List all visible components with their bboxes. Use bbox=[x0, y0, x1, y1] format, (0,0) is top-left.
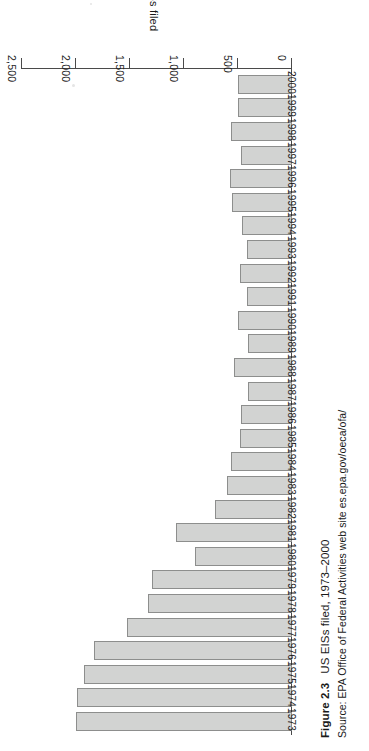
bar-row bbox=[22, 334, 292, 353]
bar-1973 bbox=[76, 712, 292, 731]
bar-1982 bbox=[215, 500, 292, 519]
category-label-1996: 1996 bbox=[286, 165, 296, 188]
category-label-1990: 1990 bbox=[286, 307, 296, 330]
axis-tick bbox=[291, 58, 292, 69]
bar-row bbox=[22, 523, 292, 542]
category-label-1982: 1982 bbox=[286, 496, 296, 519]
figure-number: Figure 2.3 bbox=[319, 683, 331, 738]
category-label-1980: 1980 bbox=[286, 543, 296, 566]
bar-row bbox=[22, 146, 292, 165]
axis-tick bbox=[237, 58, 238, 69]
axis-tick bbox=[21, 58, 22, 69]
bar-row bbox=[22, 240, 292, 259]
bar-1997 bbox=[241, 146, 292, 165]
bar-row bbox=[22, 264, 292, 283]
bar-1999 bbox=[238, 98, 292, 117]
bar-row bbox=[22, 358, 292, 377]
bar-1984 bbox=[231, 452, 292, 471]
bar-row bbox=[22, 618, 292, 637]
category-label-1998: 1998 bbox=[286, 118, 296, 141]
category-label-1977: 1977 bbox=[286, 614, 296, 637]
bar-row bbox=[22, 594, 292, 613]
bar-1985 bbox=[240, 429, 292, 448]
bar-row bbox=[22, 405, 292, 424]
bar-1980 bbox=[195, 547, 292, 566]
bar-row bbox=[22, 311, 292, 330]
bar-row bbox=[22, 122, 292, 141]
bar-row bbox=[22, 452, 292, 471]
category-label-1992: 1992 bbox=[286, 260, 296, 283]
category-label-1976: 1976 bbox=[286, 637, 296, 660]
bar-1981 bbox=[176, 523, 292, 542]
figure-source: Source: EPA Office of Federal Activities… bbox=[335, 398, 349, 738]
category-label-1975: 1975 bbox=[286, 661, 296, 684]
bar-row bbox=[22, 570, 292, 589]
category-label-1983: 1983 bbox=[286, 472, 296, 495]
category-label-1989: 1989 bbox=[286, 330, 296, 353]
bar-row bbox=[22, 75, 292, 94]
figure-caption: Figure 2.3US EISs filed, 1973–2000 Sourc… bbox=[318, 398, 364, 738]
bar-1979 bbox=[152, 570, 292, 589]
category-label-1986: 1986 bbox=[286, 401, 296, 424]
bar-1986 bbox=[241, 405, 292, 424]
bar-row bbox=[22, 382, 292, 401]
figure-page: 05001,0001,5002,0002,500 197319741975197… bbox=[0, 0, 369, 751]
bar-1994 bbox=[242, 216, 292, 235]
category-label-1974: 1974 bbox=[286, 684, 296, 707]
bar-1978 bbox=[148, 594, 292, 613]
figure-title: US EISs filed, 1973–2000 bbox=[319, 540, 331, 674]
bar-1992 bbox=[240, 264, 292, 283]
category-label-2000: 2000 bbox=[286, 71, 296, 94]
bar-row bbox=[22, 641, 292, 660]
bar-row bbox=[22, 287, 292, 306]
plot-area: 05001,0001,5002,0002,500 197319741975197… bbox=[22, 45, 292, 735]
category-label-1981: 1981 bbox=[286, 519, 296, 542]
bar-chart: 05001,0001,5002,0002,500 197319741975197… bbox=[0, 0, 310, 751]
axis-tick bbox=[75, 58, 76, 69]
category-label-1987: 1987 bbox=[286, 378, 296, 401]
axis-tick bbox=[129, 58, 130, 69]
axis-tick-label: 2,500 bbox=[7, 55, 18, 82]
category-label-1978: 1978 bbox=[286, 590, 296, 613]
category-label-1979: 1979 bbox=[286, 566, 296, 589]
category-label-1991: 1991 bbox=[286, 283, 296, 306]
axis-tick-label: 500 bbox=[223, 55, 234, 73]
bar-row bbox=[22, 665, 292, 684]
bar-1977 bbox=[127, 618, 292, 637]
bar-row bbox=[22, 712, 292, 731]
category-label-1993: 1993 bbox=[286, 236, 296, 259]
axis-tick-label: 0 bbox=[277, 55, 288, 61]
bar-1988 bbox=[234, 358, 292, 377]
axis-tick bbox=[183, 58, 184, 69]
category-label-1997: 1997 bbox=[286, 142, 296, 165]
bar-row bbox=[22, 193, 292, 212]
bar-1995 bbox=[232, 193, 292, 212]
bar-row bbox=[22, 476, 292, 495]
category-label-1985: 1985 bbox=[286, 425, 296, 448]
bar-row bbox=[22, 169, 292, 188]
bar-1983 bbox=[227, 476, 292, 495]
bar-2000 bbox=[238, 75, 292, 94]
caption-title-line: Figure 2.3US EISs filed, 1973–2000 bbox=[318, 398, 333, 738]
category-label-1988: 1988 bbox=[286, 354, 296, 377]
bar-row bbox=[22, 547, 292, 566]
bar-1976 bbox=[94, 641, 292, 660]
bar-row bbox=[22, 688, 292, 707]
category-label-1999: 1999 bbox=[286, 94, 296, 117]
category-label-1973: 1973 bbox=[286, 708, 296, 731]
category-label-1995: 1995 bbox=[286, 189, 296, 212]
bar-row bbox=[22, 429, 292, 448]
bar-1996 bbox=[230, 169, 292, 188]
bar-1975 bbox=[84, 665, 292, 684]
bar-row bbox=[22, 98, 292, 117]
bar-1974 bbox=[77, 688, 292, 707]
bar-row bbox=[22, 216, 292, 235]
category-label-1994: 1994 bbox=[286, 212, 296, 235]
value-axis-title: EISs filed bbox=[148, 0, 160, 31]
bar-1998 bbox=[231, 122, 292, 141]
category-label-1984: 1984 bbox=[286, 448, 296, 471]
bar-row bbox=[22, 500, 292, 519]
bar-1990 bbox=[238, 311, 292, 330]
